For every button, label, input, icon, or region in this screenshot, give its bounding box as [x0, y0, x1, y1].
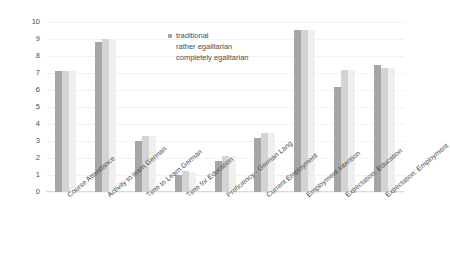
legend-label: rather egalitarian [176, 41, 232, 52]
x-axis-labels: Course AttendanceActivity to learn Germa… [46, 193, 404, 269]
y-axis-tick-label: 6 [20, 86, 40, 94]
bar [388, 68, 395, 192]
bar [109, 39, 116, 192]
y-axis-tick-label: 9 [20, 35, 40, 43]
bar [55, 71, 62, 192]
legend-swatch-icon [168, 56, 172, 60]
chart-legend: traditionalrather egalitariancompletely … [168, 30, 249, 63]
y-axis-tick-label: 4 [20, 120, 40, 128]
legend-swatch-icon [168, 45, 172, 49]
bar-group [46, 22, 86, 192]
legend-item[interactable]: rather egalitarian [168, 41, 249, 52]
y-axis-tick-label: 8 [20, 52, 40, 60]
bar [62, 71, 69, 192]
legend-label: traditional [176, 30, 209, 41]
y-axis-tick-label: 5 [20, 103, 40, 111]
y-axis-tick-label: 3 [20, 137, 40, 145]
legend-item[interactable]: traditional [168, 30, 249, 41]
y-axis-tick-label: 2 [20, 154, 40, 162]
y-axis-tick-label: 7 [20, 69, 40, 77]
legend-item[interactable]: completely egalitarian [168, 52, 249, 63]
bar [348, 70, 355, 192]
y-axis-tick-label: 0 [20, 188, 40, 196]
bar [341, 70, 348, 192]
legend-swatch-icon [168, 34, 172, 38]
bar [182, 171, 189, 192]
legend-label: completely egalitarian [176, 52, 249, 63]
bar [308, 30, 315, 192]
bar [69, 71, 76, 192]
bar [381, 68, 388, 192]
y-axis-tick-label: 1 [20, 171, 40, 179]
y-axis-tick-label: 10 [20, 18, 40, 26]
